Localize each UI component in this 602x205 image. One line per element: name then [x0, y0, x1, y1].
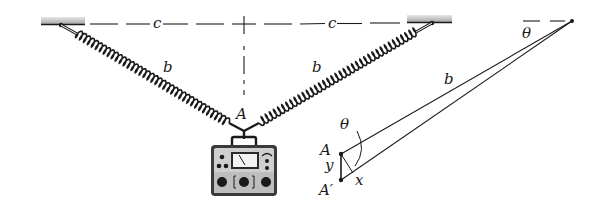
left-hook — [61, 25, 77, 34]
label-theta-detail: θ — [340, 115, 349, 133]
spring-suspension-diagram: c c b b A — [0, 0, 602, 205]
label-x-detail: x — [355, 171, 364, 189]
label-b-right: b — [312, 58, 322, 76]
right-ceiling-support — [407, 15, 452, 23]
label-theta-top: θ — [522, 24, 531, 42]
label-c-left: c — [153, 14, 162, 32]
left-spring — [76, 31, 230, 124]
geometry-detail — [339, 19, 574, 182]
detail-line-b-upper — [341, 21, 572, 154]
left-ceiling-support — [41, 17, 85, 25]
label-b-detail: b — [444, 70, 454, 88]
theta-arc — [355, 131, 362, 166]
detail-segment-x — [341, 154, 353, 173]
right-spring — [259, 28, 416, 125]
detail-line-lower — [341, 21, 572, 180]
label-A-prime-detail: A′ — [317, 181, 334, 199]
label-A-main: A — [234, 105, 247, 123]
label-y-detail: y — [324, 156, 334, 174]
label-b-left: b — [163, 58, 173, 76]
right-hook — [416, 23, 432, 32]
horizontal-dimension-line — [90, 23, 400, 24]
instrument-box — [211, 137, 277, 196]
label-c-right: c — [328, 14, 337, 32]
